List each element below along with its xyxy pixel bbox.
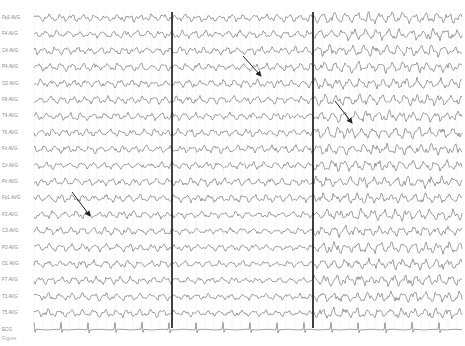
channel-label: ECG: [2, 327, 32, 332]
channel-label: P4 AVG: [2, 64, 32, 69]
eeg-trace: [34, 275, 462, 287]
channel-label: Cz AVG: [2, 163, 32, 168]
eeg-trace: [34, 12, 462, 24]
channel-label: F8 AVG: [2, 97, 32, 102]
eeg-trace: [34, 208, 462, 221]
eeg-trace: [34, 176, 462, 189]
eeg-trace: [34, 143, 462, 155]
channel-label: F3 AVG: [2, 212, 32, 217]
eeg-trace: [34, 258, 462, 270]
eeg-trace: [34, 45, 462, 58]
channel-label: T4 AVG: [2, 113, 32, 118]
channel-label: T5 AVG: [2, 310, 32, 315]
eeg-trace: [34, 291, 462, 302]
channel-label: P3 AVG: [2, 245, 32, 250]
figure-caption: Figure: [2, 335, 16, 341]
channel-label: Fp1 AVG: [2, 195, 32, 200]
channel-label: Fz AVG: [2, 146, 32, 151]
eeg-trace: [34, 77, 462, 89]
eeg-trace: [34, 94, 462, 106]
eeg-trace: [34, 160, 462, 172]
annotation-arrow-icon: [335, 101, 352, 123]
eeg-trace: [34, 127, 462, 139]
eeg-trace: [34, 225, 462, 237]
channel-label: O1 AVG: [2, 261, 32, 266]
channel-label: C3 AVG: [2, 228, 32, 233]
channel-label: F7 AVG: [2, 277, 32, 282]
ecg-trace: [34, 322, 462, 333]
channel-label: F4 AVG: [2, 31, 32, 36]
channel-label: T6 AVG: [2, 130, 32, 135]
eeg-trace: [34, 242, 462, 255]
eeg-trace: [34, 61, 462, 73]
eeg-trace: [34, 110, 462, 122]
eeg-trace: [34, 193, 462, 204]
channel-label: T3 AVG: [2, 294, 32, 299]
channel-label: C4 AVG: [2, 48, 32, 53]
annotation-arrow-icon: [243, 56, 261, 76]
channel-label: Fp2 AVG: [2, 15, 32, 20]
channel-label: O2 AVG: [2, 81, 32, 86]
channel-label: Pz AVG: [2, 179, 32, 184]
eeg-figure: [0, 0, 465, 346]
eeg-trace: [34, 307, 462, 319]
eeg-trace: [34, 28, 462, 41]
